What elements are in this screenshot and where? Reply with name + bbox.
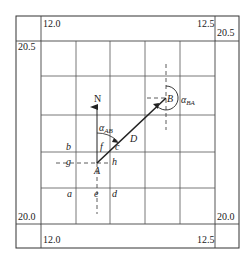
grid-label-e: e (94, 188, 99, 199)
label-bottom-left-x: 12.0 (43, 234, 61, 245)
label-top-left-x: 12.0 (43, 18, 61, 29)
grid-label-b: b (66, 141, 71, 152)
grid-label-d: d (112, 188, 118, 199)
label-bottom-right-x: 12.5 (197, 234, 215, 245)
label-right-top-y: 20.5 (217, 27, 235, 38)
grid-label-a: a (67, 188, 72, 199)
map-grid-diagram: 12.0 12.5 20.5 20.5 20.0 20.0 12.0 12.5 … (0, 0, 252, 265)
horizontal-grid-lines (41, 76, 215, 188)
grid-label-h: h (112, 156, 117, 167)
point-b-label: B (167, 93, 173, 104)
point-a-label: A (93, 165, 101, 176)
north-label: N (94, 93, 101, 104)
outer-frame (16, 16, 239, 248)
label-top-right-x: 12.5 (197, 18, 215, 29)
point-c-label: c (115, 141, 120, 152)
label-right-bottom-y: 20.0 (217, 211, 235, 222)
label-left-top-y: 20.5 (18, 41, 36, 52)
point-d-label: D (129, 133, 138, 144)
label-left-bottom-y: 20.0 (18, 211, 36, 222)
grid-label-f: f (100, 141, 104, 152)
vertical-grid-lines (76, 41, 180, 224)
grid-label-g: g (66, 156, 71, 167)
alpha-ba-label: αBA (181, 94, 196, 107)
